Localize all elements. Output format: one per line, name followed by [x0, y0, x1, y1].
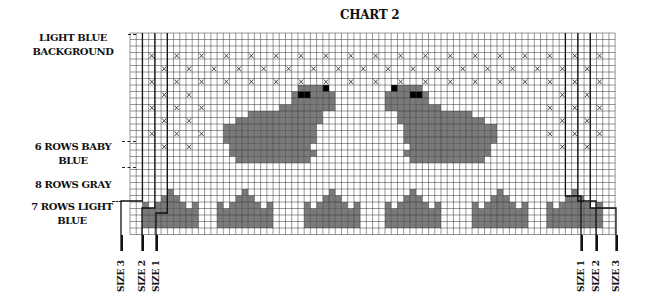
size2-left-tick — [142, 235, 144, 251]
size1-right-tick — [581, 235, 583, 251]
size3-right-label: SIZE 3 — [611, 260, 621, 292]
size1-right-label: SIZE 1 — [576, 260, 586, 292]
size3-left-tick — [121, 235, 123, 251]
size2-right-label: SIZE 2 — [591, 260, 601, 292]
size1-left-tick — [156, 235, 158, 251]
size3-left-label: SIZE 3 — [116, 260, 126, 292]
knitting-chart-grid — [0, 0, 656, 302]
size1-left-label: SIZE 1 — [151, 260, 161, 292]
size2-left-label: SIZE 2 — [137, 260, 147, 292]
size2-right-tick — [596, 235, 598, 251]
size3-right-tick — [616, 235, 618, 251]
